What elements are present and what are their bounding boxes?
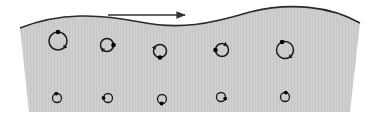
diagram-canvas — [0, 0, 377, 118]
water-particle-dot-icon — [158, 55, 163, 60]
water-particle-dot-icon — [56, 30, 61, 35]
wave-orbit-diagram — [0, 0, 377, 118]
water-particle-dot-icon — [54, 92, 58, 96]
water-particle-dot-icon — [223, 97, 227, 101]
water-particle-dot-icon — [111, 43, 116, 48]
water-particle-dot-icon — [284, 91, 288, 95]
water-particle-dot-icon — [280, 40, 285, 45]
water-body — [20, 7, 360, 112]
water-particle-dot-icon — [102, 96, 106, 100]
water-particle-dot-icon — [160, 102, 164, 106]
water-particle-dot-icon — [213, 48, 218, 53]
